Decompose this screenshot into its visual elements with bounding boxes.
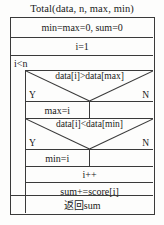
decision-min-condition: data[i]<data[min] [26,119,153,130]
branch-cell-max-yes: max=i [26,102,90,118]
loop-body: data[i]>data[max] Y N max=i data[i] [25,70,153,213]
statement-init-label: min=max=0, sum=0 [41,22,122,33]
loop-condition-header: i<n [11,56,153,70]
ns-flowchart-outer-box: min=max=0, sum=0 i=1 i<n data[i]>data[ma… [10,17,155,215]
branch-cell-min-yes: min=i [26,150,90,166]
statement-return-label: 返回sum [64,200,101,211]
decision-min-yes-label: Y [29,138,36,149]
decision-min: data[i]<data[min] Y N [26,119,153,150]
diagram-title: Total(data, n, max, min) [0,2,164,15]
loop-condition-label: i<n [14,58,27,69]
statement-init: min=max=0, sum=0 [11,18,153,38]
statement-counter-init-label: i=1 [75,41,88,52]
assign-min-label: min=i [45,153,69,164]
statement-increment-label: i++ [82,169,96,180]
statement-counter-init: i=1 [11,38,153,56]
statement-return: 返回sum [11,195,153,214]
decision-max-condition: data[i]>data[max] [26,71,153,82]
branch-row-max: max=i [26,102,153,119]
statement-increment: i++ [26,167,153,183]
branch-cell-max-no [90,102,154,118]
branch-row-min: min=i [26,150,153,167]
decision-max-no-label: N [142,90,149,101]
diagram-canvas: Total(data, n, max, min) min=max=0, sum=… [0,0,164,225]
decision-max: data[i]>data[max] Y N [26,71,153,102]
decision-max-yes-label: Y [29,90,36,101]
decision-min-no-label: N [142,138,149,149]
assign-max-label: max=i [44,105,70,116]
branch-cell-min-no [90,150,154,166]
